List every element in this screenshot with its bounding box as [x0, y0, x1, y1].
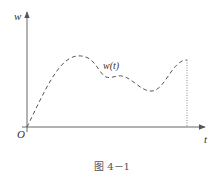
origin-label: O [17, 128, 25, 140]
x-axis-label: t [204, 133, 208, 145]
figure-caption: 图 4－1 [94, 161, 130, 172]
y-axis-label: w [14, 10, 22, 22]
function-graph: w t O w(t) 图 4－1 [0, 0, 224, 180]
curve-label: w(t) [103, 60, 120, 72]
